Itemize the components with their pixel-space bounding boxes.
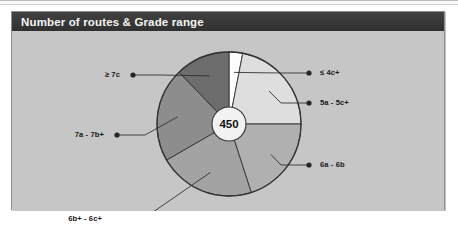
- slice-label[interactable]: 6b+ - 6c+: [68, 215, 102, 223]
- leader-dot-marker: [130, 72, 135, 77]
- page-title: Number of routes & Grade range: [12, 16, 204, 28]
- center-value-text: 450: [219, 118, 238, 130]
- leader-dot-marker: [114, 132, 119, 137]
- chart-area: 450 ≤ 4c+5a - 5c+6a - 6b6b+ - 6c+7a - 7b…: [12, 31, 444, 211]
- slice-label[interactable]: ≥ 7c: [105, 71, 120, 79]
- slice-label[interactable]: 6a - 6b: [320, 161, 345, 169]
- slice-label[interactable]: 5a - 5c+: [320, 99, 349, 107]
- leader-dot-marker: [306, 100, 311, 105]
- leader-dot-marker: [306, 70, 311, 75]
- slice-label[interactable]: 7a - 7b+: [75, 131, 104, 139]
- page-edge-divider: [0, 0, 458, 5]
- leader-line: [234, 72, 309, 73]
- figure-panel: Number of routes & Grade range 450 ≤ 4c+…: [11, 11, 445, 210]
- pie-chart: 450: [12, 31, 446, 211]
- panel-title-bar: Number of routes & Grade range: [12, 12, 444, 31]
- leader-dot-marker: [306, 162, 311, 167]
- slice-label[interactable]: ≤ 4c+: [320, 69, 340, 77]
